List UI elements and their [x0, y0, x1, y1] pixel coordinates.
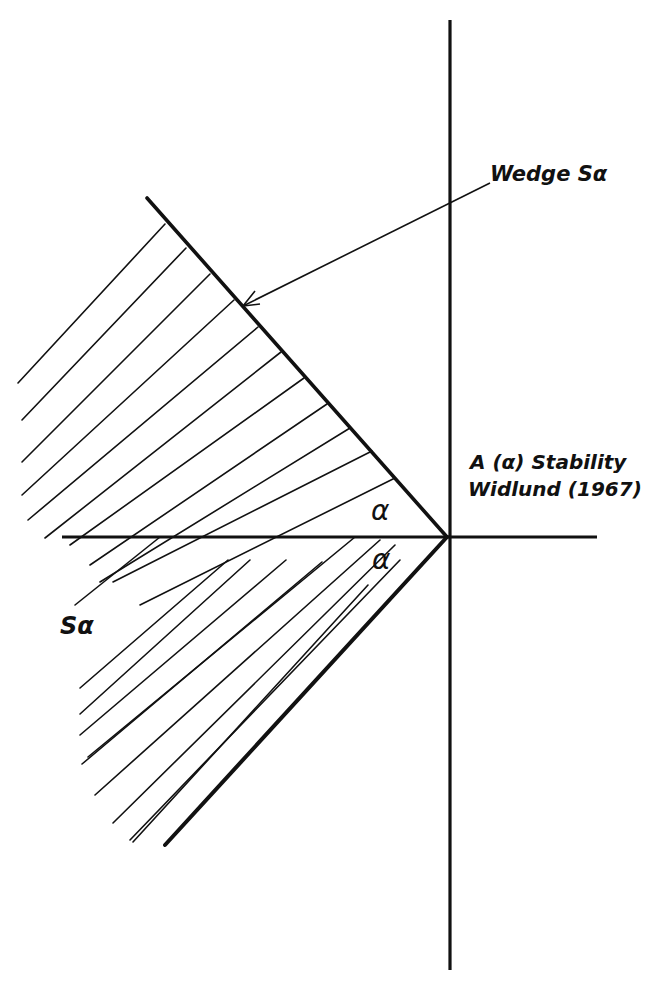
- wedge-lower-boundary: [165, 537, 447, 845]
- alpha-upper-label: α: [371, 494, 389, 527]
- stability-title: A (α) Stability: [470, 450, 626, 474]
- arrow-icon: [243, 183, 490, 306]
- hatch-lines: [18, 224, 400, 842]
- stability-citation: Widlund (1967): [468, 477, 642, 501]
- region-label: Sα: [60, 612, 94, 640]
- alpha-lower-label: α: [372, 543, 390, 576]
- wedge-label: Wedge Sα: [490, 162, 607, 186]
- wedge-upper-boundary: [147, 198, 447, 537]
